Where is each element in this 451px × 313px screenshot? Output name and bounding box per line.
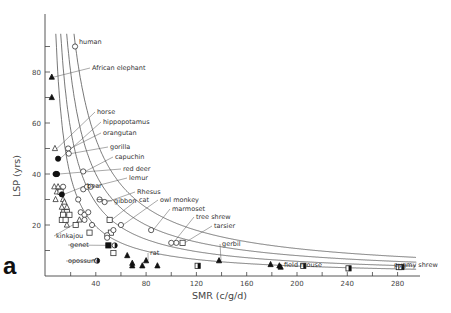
- data-point-circle-open: [89, 222, 94, 227]
- data-point-circle-open: [149, 228, 154, 233]
- data-point-circle-open: [118, 222, 123, 227]
- data-point-circle-open: [102, 199, 107, 204]
- point-label: owl monkey: [160, 196, 199, 204]
- data-point-circle-filled: [55, 156, 60, 161]
- data-point-square-half: [195, 263, 200, 268]
- point-label: gorilla: [110, 143, 130, 151]
- data-point-circle-open: [72, 44, 77, 49]
- point-label: opossum: [68, 257, 97, 265]
- data-point-circle-cross: [97, 197, 102, 202]
- x-axis-title: SMR (c/g/d): [192, 290, 247, 301]
- data-point-triangle-filled: [49, 94, 54, 99]
- point-label: Rhesus: [137, 188, 161, 196]
- point-label: gerbil: [222, 240, 241, 248]
- point-label: cat: [139, 196, 150, 204]
- y-tick-label: 40: [32, 171, 41, 179]
- data-point-triangle-open: [53, 196, 58, 201]
- y-axis-title: LSP (yrs): [11, 155, 22, 197]
- point-label: orangutan: [103, 129, 137, 137]
- x-ticks: 4080120160200240280: [71, 272, 405, 288]
- data-point-circle-open: [81, 169, 86, 174]
- data-point-triangle-filled: [140, 263, 145, 268]
- leader-line: [54, 68, 90, 77]
- point-label: kinkajou: [56, 232, 83, 240]
- point-label: horse: [97, 108, 115, 116]
- x-tick-label: 40: [91, 280, 100, 288]
- point-label: African elephant: [92, 64, 146, 72]
- point-label: marmoset: [172, 205, 206, 213]
- data-point-square-half: [346, 266, 351, 271]
- data-point-square-open: [67, 212, 72, 217]
- point-label: tarsier: [214, 222, 235, 230]
- data-point-circle-open: [111, 228, 116, 233]
- data-point-triangle-open: [55, 184, 60, 189]
- data-point-circle-filled: [54, 171, 59, 176]
- point-label: rat: [150, 249, 160, 257]
- data-point-square-open: [111, 250, 116, 255]
- x-tick-label: 160: [240, 280, 253, 288]
- y-tick-label: 80: [32, 69, 41, 77]
- data-point-square-filled: [106, 243, 111, 248]
- data-point-triangle-filled: [49, 74, 54, 79]
- data-point-triangle-filled: [155, 263, 160, 268]
- data-point-circle-open: [169, 240, 174, 245]
- point-label: field mouse: [284, 261, 322, 269]
- data-point-triangle-open: [52, 145, 57, 150]
- data-point-circle-open: [82, 217, 87, 222]
- data-point-square-open: [63, 217, 68, 222]
- data-point-triangle-open: [59, 204, 64, 209]
- leader-line: [185, 226, 212, 243]
- data-point-square-open: [87, 230, 92, 235]
- lsp-smr-chart: 4080120160200240280 20406080 humanAfrica…: [0, 0, 451, 313]
- data-point-circle-open: [86, 210, 91, 215]
- data-point-triangle-filled: [125, 253, 130, 258]
- data-point-circle-open: [61, 184, 66, 189]
- data-point-square-open: [61, 212, 66, 217]
- x-tick-label: 80: [142, 280, 151, 288]
- point-label: pygmy shrew: [394, 261, 438, 269]
- data-point-circle-half: [112, 243, 117, 248]
- point-label: gibbon: [114, 197, 136, 205]
- data-point-circle-open: [76, 197, 81, 202]
- data-point-circle-open: [66, 151, 71, 156]
- data-point-circle-filled: [59, 192, 64, 197]
- point-label: bear: [87, 182, 102, 190]
- axes: [45, 14, 420, 276]
- y-tick-label: 60: [32, 120, 41, 128]
- x-tick-label: 240: [341, 280, 354, 288]
- data-point-square-open: [107, 217, 112, 222]
- data-point-circle-open: [66, 146, 71, 151]
- y-ticks: 20406080: [32, 47, 50, 251]
- data-point-triangle-filled: [268, 261, 273, 266]
- leader-line: [71, 147, 108, 154]
- panel-label: a: [3, 252, 17, 279]
- data-points: [49, 44, 404, 271]
- point-label: tree shrew: [196, 213, 231, 221]
- data-point-square-open: [73, 222, 78, 227]
- point-label: genet: [70, 241, 89, 249]
- data-point-circle-open: [174, 240, 179, 245]
- data-point-triangle-open: [64, 204, 69, 209]
- point-label: hippopotamus: [103, 118, 150, 126]
- x-tick-label: 280: [391, 280, 404, 288]
- data-point-triangle-open: [77, 217, 82, 222]
- data-point-circle-open: [105, 235, 110, 240]
- point-label: lemur: [129, 174, 148, 182]
- point-label: red deer: [123, 165, 151, 173]
- x-tick-label: 120: [190, 280, 203, 288]
- x-tick-label: 200: [290, 280, 303, 288]
- point-label: human: [79, 38, 102, 46]
- data-point-square-open: [180, 240, 185, 245]
- point-label: capuchin: [115, 153, 144, 161]
- y-tick-label: 20: [32, 222, 41, 230]
